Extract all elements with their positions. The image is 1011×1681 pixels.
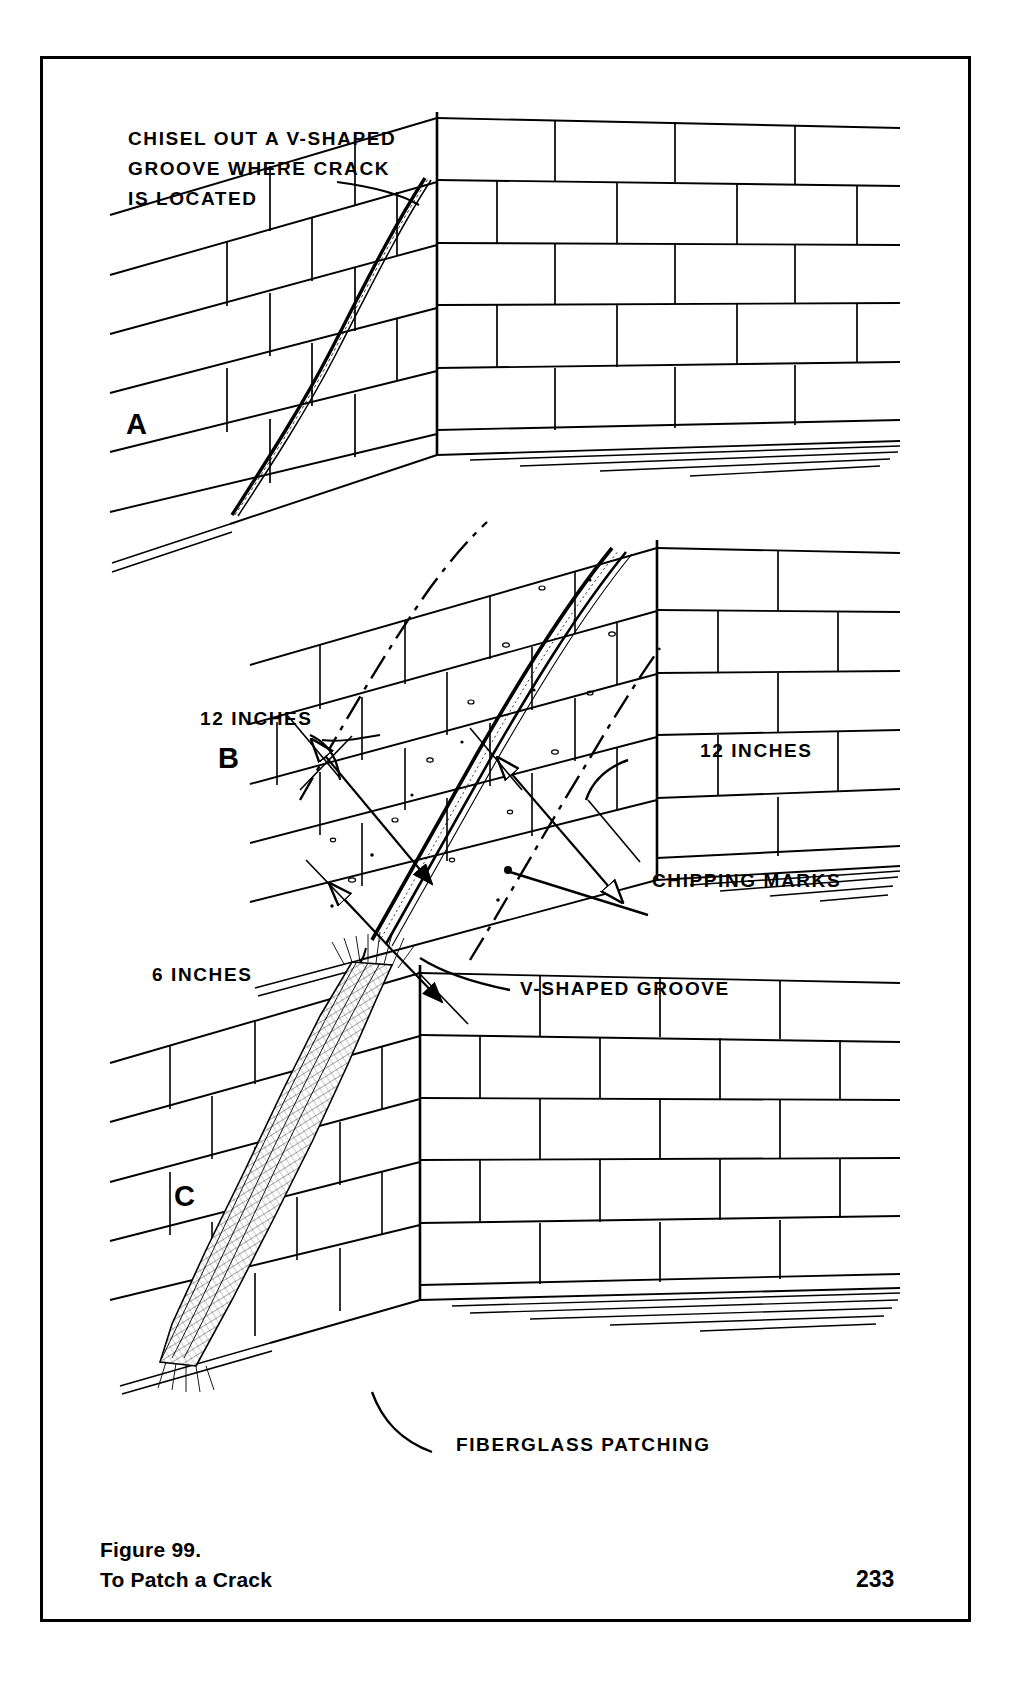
annotation-6-inches: 6 INCHES bbox=[152, 964, 252, 986]
annotation-chipping-marks: CHIPPING MARKS bbox=[652, 870, 841, 892]
annotation-chisel-line1: CHISEL OUT A V-SHAPED bbox=[128, 128, 396, 150]
annotation-v-shaped-groove: V-SHAPED GROOVE bbox=[520, 978, 730, 1000]
annotation-fiberglass-patching: FIBERGLASS PATCHING bbox=[456, 1434, 711, 1456]
figure-caption-line2: To Patch a Crack bbox=[100, 1568, 272, 1592]
panel-letter-c: C bbox=[174, 1180, 195, 1213]
figure-caption-line1: Figure 99. bbox=[100, 1538, 201, 1562]
panel-letter-b: B bbox=[218, 742, 239, 775]
figure-border bbox=[40, 56, 971, 1622]
panel-letter-a: A bbox=[126, 408, 147, 441]
annotation-chisel-line2: GROOVE WHERE CRACK bbox=[128, 158, 390, 180]
page-number: 233 bbox=[856, 1566, 894, 1593]
annotation-12-inches-left: 12 INCHES bbox=[200, 708, 313, 730]
annotation-chisel-line3: IS LOCATED bbox=[128, 188, 258, 210]
figure-page: CHISEL OUT A V-SHAPED GROOVE WHERE CRACK… bbox=[0, 0, 1011, 1681]
annotation-12-inches-right: 12 INCHES bbox=[700, 740, 813, 762]
